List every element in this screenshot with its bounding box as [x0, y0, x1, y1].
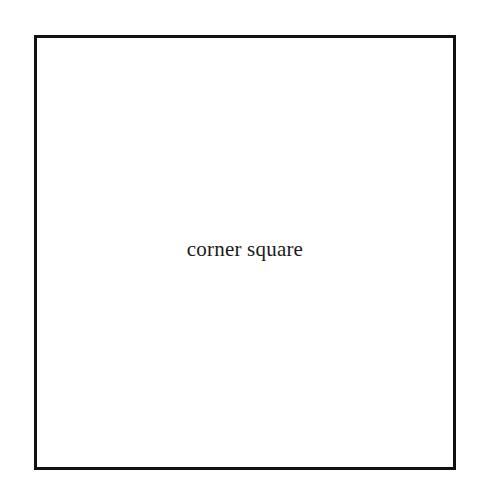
square-label: corner square	[187, 237, 303, 262]
corner-square: corner square	[34, 35, 456, 470]
